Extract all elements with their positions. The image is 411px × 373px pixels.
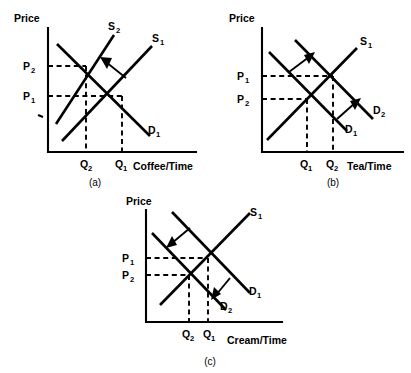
svg-text:2: 2: [130, 275, 134, 284]
svg-text:Q: Q: [326, 158, 334, 170]
supply-demand-figure: Price Coffee/Time S 2 S 1 D 1 P 2 P: [0, 0, 411, 373]
svg-text:Q: Q: [115, 158, 123, 170]
panel-b-y-axis-label: Price: [229, 12, 255, 24]
panel-c-tick-p2: P 2: [122, 269, 134, 284]
panel-c-shift-arrow-lower: [211, 278, 230, 300]
panel-c: Price Cream/Time S 1 D 1 D 2 P 1 P: [110, 185, 330, 373]
svg-text:P: P: [237, 93, 244, 105]
panel-c-axes: [146, 210, 282, 322]
panel-b-demand-curve-d1: [269, 52, 347, 131]
svg-text:1: 1: [160, 38, 165, 47]
panel-c-x-axis-label: Cream/Time: [227, 334, 287, 346]
svg-text:1: 1: [308, 164, 313, 173]
panel-a-label-s1: S 1: [152, 32, 165, 47]
svg-text:P: P: [237, 70, 244, 82]
panel-a-tick-p2: P 2: [23, 60, 35, 75]
panel-c-tick-q2: Q 2: [182, 328, 194, 343]
svg-text:2: 2: [334, 164, 338, 173]
svg-text:2: 2: [245, 99, 249, 108]
panel-c-supply-curve-s1: [160, 213, 250, 305]
panel-c-caption: (c): [204, 356, 216, 367]
panel-a-tick-q2: Q 2: [80, 158, 92, 173]
panel-b-axes: [262, 28, 403, 152]
panel-a-x-axis-label: Coffee/Time: [133, 160, 193, 172]
panel-c-tick-p1: P 1: [122, 252, 135, 267]
panel-c-label-d2: D 2: [220, 300, 232, 315]
panel-b-label-d2: D 2: [373, 104, 385, 119]
svg-text:1: 1: [156, 130, 161, 139]
svg-text:P: P: [23, 60, 30, 72]
svg-text:Q: Q: [203, 328, 211, 340]
svg-text:S: S: [250, 206, 257, 218]
svg-text:2: 2: [190, 334, 194, 343]
svg-text:1: 1: [130, 258, 135, 267]
panel-c-y-axis-label: Price: [126, 195, 152, 207]
svg-text:1: 1: [245, 76, 250, 85]
panel-b-tick-q2: Q 2: [326, 158, 338, 173]
svg-text:S: S: [360, 35, 367, 47]
svg-text:1: 1: [31, 96, 36, 105]
panel-b-shift-arrow-lower: [337, 98, 361, 119]
panel-a-stray-mark: [38, 115, 43, 117]
svg-text:1: 1: [368, 41, 373, 50]
panel-a-tick-q1: Q 1: [115, 158, 128, 173]
svg-text:2: 2: [116, 26, 120, 35]
svg-text:D: D: [249, 285, 257, 297]
svg-text:D: D: [373, 104, 381, 116]
panel-a-caption: (a): [89, 177, 101, 188]
svg-text:2: 2: [381, 110, 385, 119]
svg-text:1: 1: [211, 334, 216, 343]
svg-text:S: S: [108, 20, 115, 32]
panel-a-label-s2: S 2: [108, 20, 120, 35]
panel-a-y-axis-label: Price: [14, 12, 40, 24]
panel-a: Price Coffee/Time S 2 S 1 D 1 P 2 P: [0, 0, 205, 190]
panel-b: Price Tea/Time S 1 D 1 D 2 P 1 P 2: [205, 0, 411, 190]
svg-text:2: 2: [228, 306, 232, 315]
panel-b-tick-p2: P 2: [237, 93, 249, 108]
svg-text:Q: Q: [300, 158, 308, 170]
svg-text:1: 1: [353, 129, 358, 138]
svg-text:P: P: [23, 90, 30, 102]
svg-text:1: 1: [123, 164, 128, 173]
panel-c-tick-q1: Q 1: [203, 328, 216, 343]
panel-c-label-d1: D 1: [249, 285, 262, 300]
panel-c-label-s1: S 1: [250, 206, 263, 221]
svg-text:Q: Q: [80, 158, 88, 170]
panel-a-label-d1: D 1: [148, 124, 161, 139]
panel-b-tick-q1: Q 1: [300, 158, 313, 173]
panel-a-shift-arrow: [100, 57, 126, 78]
svg-text:D: D: [345, 123, 353, 135]
panel-b-shift-arrow-upper: [289, 52, 315, 72]
panel-b-label-s1: S 1: [360, 35, 373, 50]
svg-text:D: D: [220, 300, 228, 312]
svg-text:D: D: [148, 124, 156, 136]
panel-b-label-d1: D 1: [345, 123, 358, 138]
panel-a-supply-curve-s2: [56, 35, 114, 124]
panel-c-demand-curve-d2: [152, 233, 226, 310]
svg-text:P: P: [122, 252, 129, 264]
svg-text:2: 2: [31, 66, 35, 75]
svg-text:2: 2: [88, 164, 92, 173]
svg-text:1: 1: [257, 291, 262, 300]
svg-text:Q: Q: [182, 328, 190, 340]
panel-b-x-axis-label: Tea/Time: [347, 160, 392, 172]
svg-text:1: 1: [258, 212, 263, 221]
svg-text:S: S: [152, 32, 159, 44]
panel-c-shift-arrow-upper: [166, 228, 190, 248]
panel-b-demand-curve-d2: [295, 40, 373, 119]
panel-b-tick-p1: P 1: [237, 70, 250, 85]
svg-text:P: P: [122, 269, 129, 281]
panel-a-tick-p1: P 1: [23, 90, 36, 105]
